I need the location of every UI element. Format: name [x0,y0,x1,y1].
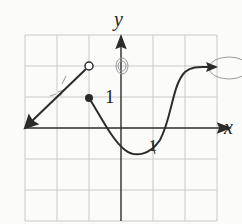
x-unit-label: 1 [149,137,157,155]
y-unit-label: 1 [105,86,115,108]
x-axis-label: x [224,116,233,139]
y-axis-label: y [114,8,123,31]
function-graph [0,0,242,224]
left-ray [25,69,86,128]
closed-dot-endpoint [85,94,93,102]
y-axis-arrow-icon [117,36,126,48]
open-circle-endpoint [85,62,93,70]
